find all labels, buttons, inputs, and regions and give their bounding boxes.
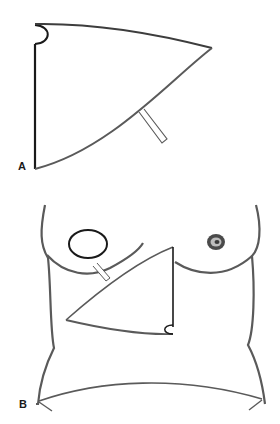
diagram-canvas — [0, 0, 280, 424]
flap-a-curved-edge — [35, 48, 212, 169]
drain-a-icon — [139, 109, 167, 143]
nipple-areola-icon — [207, 234, 225, 250]
flap-a-top-edge — [35, 24, 212, 48]
left-groin-mark — [39, 402, 52, 411]
right-groin-mark — [249, 400, 262, 410]
lower-abdominal-line — [39, 383, 262, 401]
panel-b-torso — [36, 205, 265, 411]
flap-b-notch — [165, 325, 173, 334]
breast-defect-icon — [69, 230, 107, 258]
torso-right-outline — [248, 205, 265, 404]
torso-left-outline — [36, 205, 54, 404]
panel-label-a: A — [18, 160, 26, 172]
left-breast-contour — [175, 256, 252, 273]
flap-b-bottom-edge — [66, 320, 173, 334]
flap-b — [66, 247, 173, 334]
panel-a-flap — [35, 24, 212, 169]
panel-label-b: B — [19, 398, 27, 410]
flap-a-notch — [35, 25, 48, 44]
